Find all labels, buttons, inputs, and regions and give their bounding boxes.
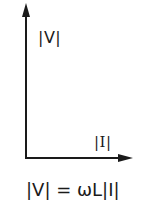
phasor-diagram: |V| |I| |V| = ωL|I| (0, 0, 157, 206)
current-phasor-arrow (25, 154, 133, 162)
axes-graphic (0, 0, 157, 206)
voltage-label: |V| (38, 30, 61, 46)
voltage-phasor-arrow (22, 3, 30, 158)
inductor-equation: |V| = ωL|I| (26, 180, 120, 200)
current-label: |I| (94, 134, 112, 150)
